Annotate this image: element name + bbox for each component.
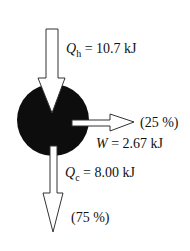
heat-out-subscript: c [75,172,79,183]
heat-out-percent-label: (75 %) [71,211,110,225]
heat-out-equals: = [80,165,95,180]
heat-out-arrow [43,146,63,232]
heat-out-value: 8.00 kJ [94,165,134,180]
heat-out-label: Qc = 8.00 kJ [65,166,135,180]
heat-in-label: Qh = 10.7 kJ [66,42,136,56]
heat-in-subscript: h [76,48,81,59]
work-symbol: W [96,136,108,151]
heat-in-equals: = [81,41,96,56]
heat-in-symbol: Q [66,41,76,56]
heat-out-symbol: Q [65,165,75,180]
work-label: W = 2.67 kJ [96,137,163,151]
heat-in-value: 10.7 kJ [96,41,136,56]
work-percent-label: (25 %) [140,116,179,130]
work-equals: = [108,136,123,151]
work-percent: (25 %) [140,115,179,130]
heat-out-percent: (75 %) [71,210,110,225]
work-value: 2.67 kJ [123,136,163,151]
